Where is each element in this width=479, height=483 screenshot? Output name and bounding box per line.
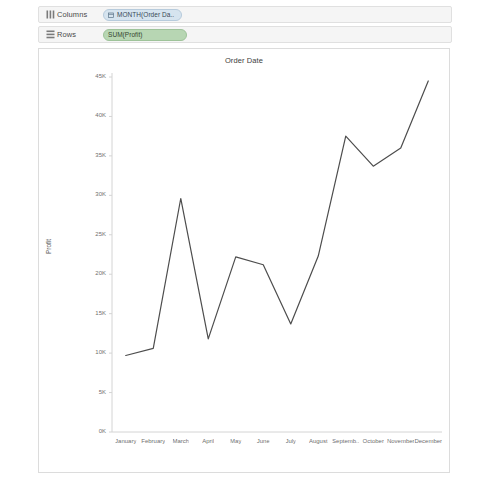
- columns-icon: [43, 10, 57, 19]
- calendar-icon: [108, 12, 114, 18]
- y-axis-tick-label: 30K: [82, 191, 106, 197]
- y-axis-tick-label: 25K: [82, 231, 106, 237]
- x-axis-tick-label[interactable]: December: [414, 438, 442, 444]
- x-axis-tick-label[interactable]: May: [230, 438, 241, 444]
- rows-icon: [43, 30, 57, 39]
- y-axis-tick-label: 5K: [82, 389, 106, 395]
- rows-shelf-label: Rows: [57, 30, 103, 39]
- pill-month-order-date-label: MONTH(Order Da..: [117, 11, 174, 18]
- x-axis-tick-label[interactable]: March: [172, 438, 189, 444]
- x-axis-tick-label[interactable]: Septemb..: [332, 438, 359, 444]
- pill-sum-profit-label: SUM(Profit): [108, 31, 143, 38]
- y-axis-tick-label: 10K: [82, 349, 106, 355]
- x-axis-tick-label[interactable]: January: [115, 438, 136, 444]
- x-axis-tick-label[interactable]: October: [363, 438, 384, 444]
- x-axis-tick-label[interactable]: February: [141, 438, 165, 444]
- y-axis-tick-label: 45K: [82, 73, 106, 79]
- x-axis-tick-label[interactable]: November: [387, 438, 415, 444]
- pill-month-order-date[interactable]: MONTH(Order Da..: [103, 9, 182, 21]
- rows-shelf[interactable]: Rows SUM(Profit): [38, 26, 452, 43]
- viz-card: Order Date Profit 0K5K10K15K20K25K30K35K…: [38, 48, 450, 473]
- plot-area[interactable]: 0K5K10K15K20K25K30K35K40K45KJanuaryFebru…: [39, 49, 451, 474]
- profit-line-series[interactable]: [126, 81, 429, 356]
- y-axis-tick-label: 20K: [82, 270, 106, 276]
- y-axis-tick-label: 0K: [82, 428, 106, 434]
- columns-shelf[interactable]: Columns MONTH(Order Da..: [38, 6, 452, 23]
- y-axis-tick-label: 15K: [82, 310, 106, 316]
- shelf-area: Columns MONTH(Order Da.. Rows: [38, 6, 452, 46]
- y-axis-tick-label: 40K: [82, 112, 106, 118]
- x-axis-tick-label[interactable]: August: [309, 438, 328, 444]
- tableau-worksheet: Columns MONTH(Order Da.. Rows: [0, 0, 479, 483]
- x-axis-tick-label[interactable]: June: [257, 438, 270, 444]
- x-axis-tick-label[interactable]: July: [285, 438, 296, 444]
- x-axis-tick-label[interactable]: April: [202, 438, 214, 444]
- columns-shelf-label: Columns: [57, 10, 103, 19]
- y-axis-tick-label: 35K: [82, 152, 106, 158]
- pill-sum-profit[interactable]: SUM(Profit): [103, 29, 187, 41]
